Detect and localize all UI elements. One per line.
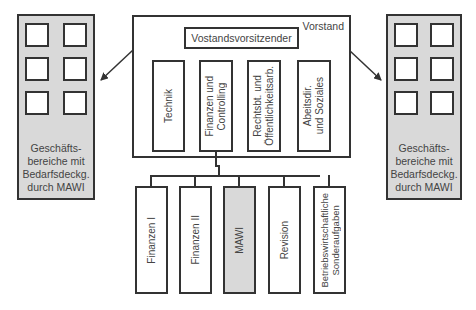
department-label: Finanzen II <box>190 215 202 264</box>
connector <box>215 152 217 166</box>
department-mawi: MAWI <box>223 186 256 294</box>
window-icon <box>394 91 418 115</box>
department-label: Finanzen I <box>146 217 158 264</box>
department-label: Revision <box>279 221 291 259</box>
window-icon <box>63 91 87 115</box>
board-label: Vorstand <box>303 20 344 32</box>
window-icon <box>25 57 49 81</box>
chairman-label: Vostandsvorsitzender <box>191 32 291 44</box>
board-member-label: Technik <box>163 89 175 123</box>
window-icon <box>63 57 87 81</box>
department-label: Betriebswirtschaftliche Sonderaufgaben <box>319 193 341 288</box>
window-icon <box>430 23 454 47</box>
department-revision: Revision <box>268 186 301 294</box>
window-icon <box>63 23 87 47</box>
window-icon <box>430 57 454 81</box>
board-member-label: Finanzen und Controlling <box>204 76 228 137</box>
window-icon <box>430 91 454 115</box>
window-icon <box>394 57 418 81</box>
department-special-tasks: Betriebswirtschaftliche Sonderaufgaben <box>313 186 346 294</box>
department-finanzen-2: Finanzen II <box>179 186 212 294</box>
window-icon <box>25 91 49 115</box>
board-member-technik: Technik <box>152 60 185 152</box>
department-finanzen-1: Finanzen I <box>135 186 168 294</box>
left-panel-label: Geschäfts- bereiche mit Bedarfsdeckg. du… <box>19 142 93 194</box>
board-member-labour: Abeitsdir. und Soziales <box>297 60 331 152</box>
arrow-left-icon <box>101 50 133 80</box>
right-business-units-panel: Geschäfts- bereiche mit Bedarfsdeckg. du… <box>386 14 462 200</box>
board-member-legal: Rechtsbt. und Öffentlichkeitsarb. <box>247 60 281 152</box>
chairman-box: Vostandsvorsitzender <box>184 27 299 49</box>
right-panel-label: Geschäfts- bereiche mit Bedarfsdeckg. du… <box>388 142 460 194</box>
board-member-label: Abeitsdir. und Soziales <box>302 77 326 134</box>
arrow-right-icon <box>349 50 381 80</box>
board-member-finance: Finanzen und Controlling <box>199 60 233 152</box>
window-icon <box>394 23 418 47</box>
window-icon <box>25 23 49 47</box>
department-label: MAWI <box>234 227 246 254</box>
connector <box>150 175 320 177</box>
left-business-units-panel: Geschäfts- bereiche mit Bedarfsdeckg. du… <box>17 14 95 200</box>
board-member-label: Rechtsbt. und Öffentlichkeitsarb. <box>252 66 276 146</box>
